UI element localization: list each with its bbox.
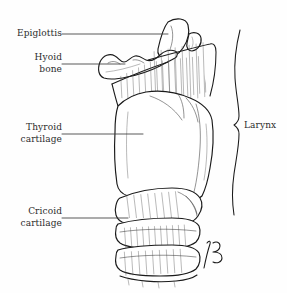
label-cricoid-line2: cartilage xyxy=(21,218,62,228)
label-hyoid-bone: Hyoidbone xyxy=(8,52,62,75)
label-hyoid-line1: Hyoid xyxy=(35,52,63,62)
label-cricoid-cartilage: Cricoidcartilage xyxy=(4,206,62,229)
label-hyoid-line2: bone xyxy=(39,64,62,74)
label-larynx: Larynx xyxy=(244,120,286,132)
label-cricoid-line1: Cricoid xyxy=(28,206,62,216)
tracheal-ring-2 xyxy=(120,275,197,288)
label-thyroid-line2: cartilage xyxy=(21,134,62,144)
anatomy-illustration: .ol { fill:#ffffff; stroke:#1a1a1a; stro… xyxy=(0,0,287,293)
larynx-diagram: .ol { fill:#ffffff; stroke:#1a1a1a; stro… xyxy=(0,0,287,293)
thyroid-cartilage xyxy=(115,91,213,202)
hyoid-bone xyxy=(99,50,178,79)
label-epiglottis: Epiglottis xyxy=(8,28,62,40)
label-thyroid-line1: Thyroid xyxy=(26,122,62,132)
label-thyroid-cartilage: Thyroidcartilage xyxy=(4,122,62,145)
artist-signature xyxy=(204,241,222,268)
tracheal-ring-1 xyxy=(116,245,200,276)
neck-contour xyxy=(233,30,241,215)
